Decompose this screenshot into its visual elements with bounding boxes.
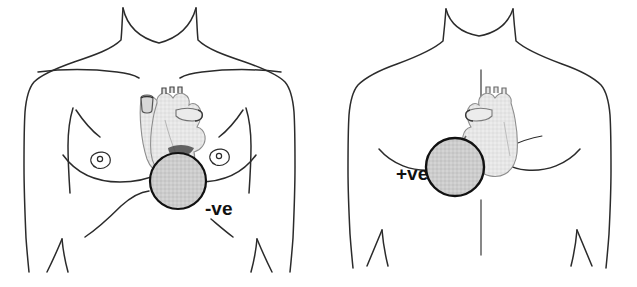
right-nipple	[210, 149, 230, 165]
body-contour	[24, 8, 123, 272]
ribcage-margin-left	[85, 191, 149, 237]
right-flank-fold-b	[577, 230, 592, 266]
body-contour-right	[196, 8, 295, 272]
anterior-view-svg: -ve	[0, 0, 320, 287]
negative-electrode-label: -ve	[205, 198, 232, 219]
flank-fold-right-b	[257, 239, 272, 272]
right-flank-fold	[571, 230, 577, 266]
negative-electrode[interactable]	[150, 153, 206, 209]
anterior-view-panel: -ve	[0, 0, 320, 287]
left-flank-fold	[382, 230, 388, 266]
posterior-view-svg: +ve	[320, 0, 637, 287]
body-contour-left	[348, 9, 446, 268]
flank-fold-right	[251, 239, 257, 272]
positive-electrode-label: +ve	[396, 163, 428, 184]
left-breast-upper	[76, 110, 100, 137]
left-flank-fold-b	[367, 230, 382, 266]
left-arm-crease	[68, 108, 73, 193]
electrode-placement-figure: -ve	[0, 0, 637, 287]
flank-fold-left	[62, 239, 68, 272]
positive-electrode-disc[interactable]	[426, 138, 484, 196]
negative-electrode-disc[interactable]	[150, 153, 206, 209]
great-vessel-stumps	[486, 87, 506, 94]
left-clavicle	[38, 70, 139, 78]
flank-fold-left-b	[47, 239, 62, 272]
posterior-view-panel: +ve	[320, 0, 637, 287]
ribcage-margin-right	[211, 219, 233, 237]
left-nipple	[91, 152, 111, 168]
right-clavicle	[180, 70, 281, 78]
right-arm-crease	[246, 108, 251, 193]
positive-electrode[interactable]	[426, 138, 484, 196]
right-breast-upper	[219, 110, 243, 137]
body-contour-right	[513, 9, 611, 268]
neck-notch	[123, 8, 196, 43]
nape-curve	[446, 9, 513, 36]
great-vessel-stumps	[162, 87, 182, 94]
